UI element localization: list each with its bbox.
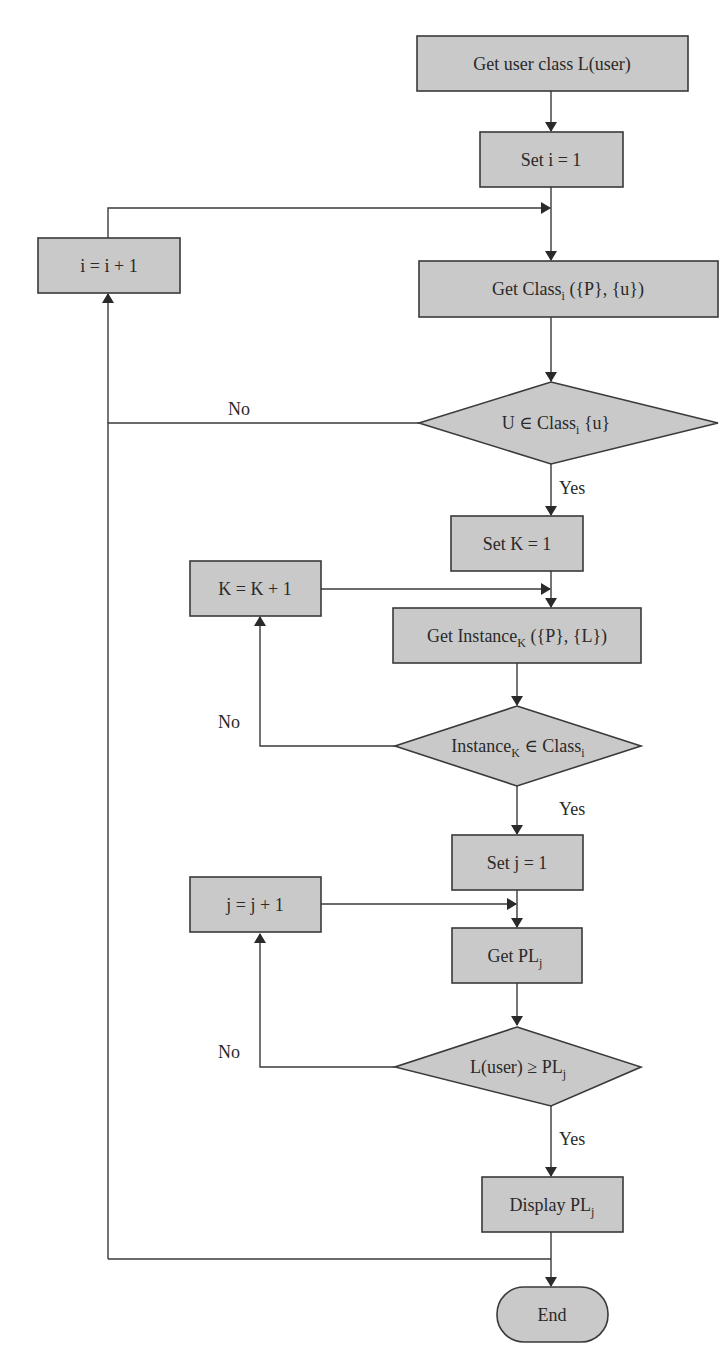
node-label: End xyxy=(538,1305,567,1325)
decision-u-in-class: U ∈ Classi {u} xyxy=(419,382,718,464)
edge-inci-to-getclass xyxy=(108,208,550,238)
node-label: j = j + 1 xyxy=(225,895,283,915)
node-inc-k: K = K + 1 xyxy=(190,561,321,616)
node-label: Get user class L(user) xyxy=(473,54,630,75)
node-get-pl: Get PLj xyxy=(452,928,582,983)
node-inc-i: i = i + 1 xyxy=(38,238,180,293)
node-set-i: Set i = 1 xyxy=(480,132,623,187)
edge-label-yes-2: Yes xyxy=(559,799,585,819)
decision-instance-in-class: InstanceK ∈ Classi xyxy=(395,706,641,786)
node-label: Set i = 1 xyxy=(521,150,582,170)
node-end-terminal: End xyxy=(497,1287,608,1342)
node-label: Set j = 1 xyxy=(487,853,548,873)
edge-decision1-no xyxy=(108,423,419,1259)
node-label: K = K + 1 xyxy=(218,579,291,599)
edge-label-no-1: No xyxy=(228,399,250,419)
node-set-j: Set j = 1 xyxy=(452,835,583,890)
node-get-instance: Get InstanceK ({P}, {L}) xyxy=(393,608,641,663)
node-set-k: Set K = 1 xyxy=(451,516,583,571)
node-label: i = i + 1 xyxy=(80,256,137,276)
node-get-class: Get Classi ({P}, {u}) xyxy=(419,261,718,317)
edge-label-yes-3: Yes xyxy=(559,1129,585,1149)
edge-label-yes-1: Yes xyxy=(559,478,585,498)
edge-decision2-no xyxy=(260,617,395,746)
node-inc-j: j = j + 1 xyxy=(190,877,321,932)
node-label: Set K = 1 xyxy=(483,534,552,554)
flowchart-diagram: Get user class L(user) Set i = 1 i = i +… xyxy=(0,0,722,1367)
node-display-pl: Display PLj xyxy=(482,1177,623,1232)
edge-decision3-no xyxy=(260,934,395,1067)
node-get-user-class: Get user class L(user) xyxy=(417,36,688,91)
decision-level-check: L(user) ≥ PLj xyxy=(395,1027,641,1106)
edge-label-no-2: No xyxy=(218,712,240,732)
edge-label-no-3: No xyxy=(218,1042,240,1062)
